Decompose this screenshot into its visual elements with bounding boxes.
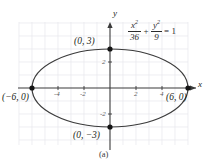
equation-x-numerator: x2 <box>129 19 140 31</box>
equation-y-fraction: y2 9 <box>151 19 162 42</box>
equation-y-denominator: 9 <box>151 31 162 42</box>
vertex-top <box>107 46 112 51</box>
vertex-label-bottom: (0, −3) <box>73 131 100 141</box>
vertex-label-left: (−6, 0) <box>2 93 29 103</box>
y-tick-label-2: 2 <box>102 59 106 66</box>
equation-x-exponent: 2 <box>135 19 138 25</box>
plot-canvas <box>0 0 212 165</box>
vertex-bottom <box>107 124 112 129</box>
equation-y-exponent: 2 <box>157 19 160 25</box>
equation-x-denominator: 36 <box>128 31 141 42</box>
y-tick-label-neg2: -2 <box>100 111 106 118</box>
x-tick-label-2: 2 <box>134 91 138 98</box>
equation-equals-one: = 1 <box>164 26 176 36</box>
x-tick-label-neg4: -4 <box>54 91 60 98</box>
vertex-right <box>185 85 190 90</box>
vertex-label-top: (0, 3) <box>74 37 95 47</box>
ellipse-equation: x2 36 + y2 9 = 1 <box>127 19 176 42</box>
equation-x-fraction: x2 36 <box>128 19 141 42</box>
equation-plus-sign: + <box>144 26 149 36</box>
vertex-left <box>29 85 34 90</box>
equation-y-numerator: y2 <box>151 19 162 31</box>
y-axis-label: y <box>113 9 117 18</box>
x-tick-label-4: 4 <box>160 91 164 98</box>
x-axis-label: x <box>198 80 202 89</box>
x-tick-label-neg2: -2 <box>80 91 86 98</box>
vertex-label-right: (6, 0) <box>166 93 187 103</box>
x-axis-arrow <box>190 85 196 90</box>
ellipse-figure: x y -4 -2 2 4 2 -2 (0, 3) (0, −3) (−6, 0… <box>0 0 212 165</box>
figure-caption: (a) <box>99 150 108 159</box>
